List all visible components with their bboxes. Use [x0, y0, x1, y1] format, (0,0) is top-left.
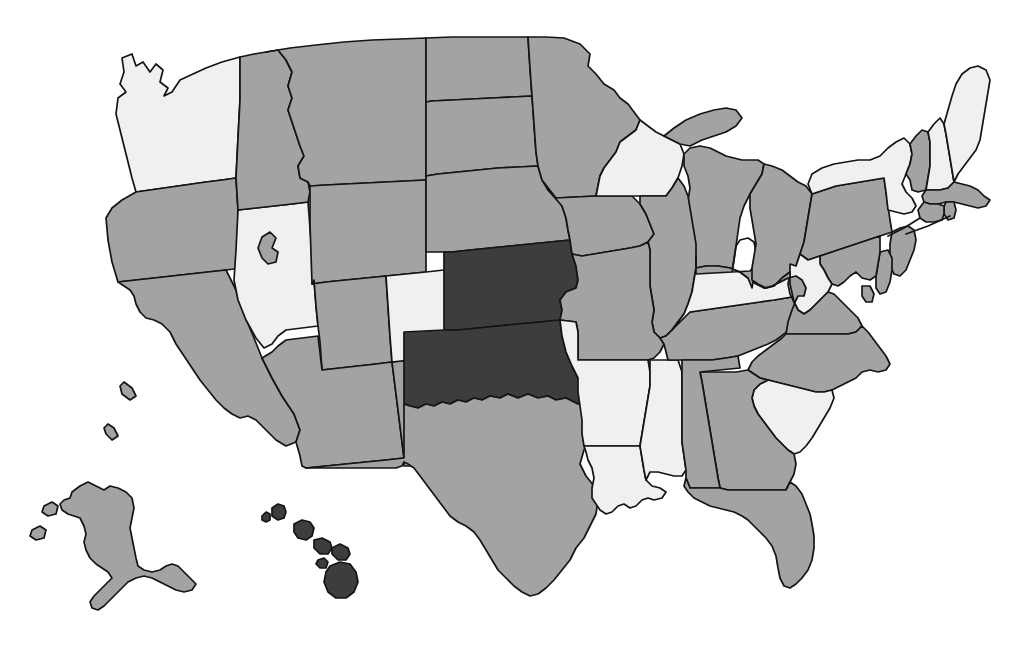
state-south-dakota[interactable] [426, 96, 538, 176]
state-connecticut[interactable] [918, 202, 944, 222]
us-choropleth-map [0, 0, 1030, 668]
state-wyoming[interactable] [310, 180, 426, 284]
state-kansas[interactable] [444, 240, 578, 330]
map-canvas [0, 0, 1030, 668]
state-north-dakota[interactable] [426, 37, 532, 102]
